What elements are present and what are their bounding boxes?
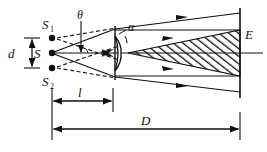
figure-container: S 1 S S 2 d θ α E l D [0, 0, 267, 152]
theta-angle-arc [86, 49, 88, 53]
label-angle-alpha: α [128, 20, 135, 34]
arrow-overlap-upper [162, 36, 174, 41]
label-source-s: S [34, 46, 41, 61]
source-point-s2 [49, 65, 55, 71]
arrow-overlap-lower [162, 66, 174, 71]
label-source-s2: S [42, 74, 49, 89]
dashed-ray-s1-upper [57, 28, 116, 38]
source-point-s1 [49, 35, 55, 41]
source-points [49, 35, 55, 71]
dashed-ray-s2-lower [57, 68, 116, 78]
source-point-s [49, 50, 55, 56]
label-distance-D: D [140, 113, 151, 128]
alpha-angle-arc [125, 36, 127, 43]
label-source-s2-subscript: 2 [50, 82, 54, 91]
biprism-diagram-svg: S 1 S S 2 d θ α E l D [0, 0, 267, 152]
label-source-s1-subscript: 1 [50, 25, 54, 34]
label-angle-theta: θ [77, 8, 83, 22]
arrow-upper-beam [176, 15, 188, 20]
theta-leader-arrow [78, 45, 84, 53]
label-separation-d: d [8, 46, 15, 61]
angle-alpha-marker [119, 30, 127, 43]
dimension-l [52, 88, 113, 112]
label-distance-l: l [78, 85, 82, 100]
label-source-s1: S [42, 17, 49, 32]
label-screen-e: E [244, 27, 253, 42]
